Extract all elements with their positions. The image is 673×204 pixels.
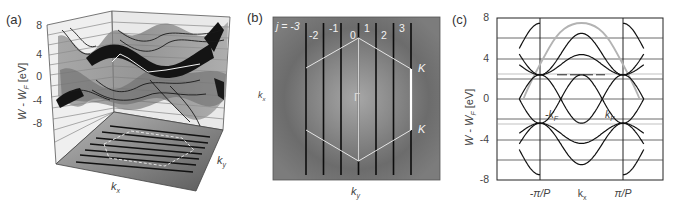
b-j-3: 3 (399, 22, 405, 34)
a-xlabel: kx (111, 180, 120, 194)
b-j-prefix: j = -3 (276, 20, 300, 32)
a-3d-plot (0, 0, 232, 204)
b-ylabel: kx (258, 90, 266, 102)
b-j-1: 1 (364, 22, 370, 34)
b-j-m1: -1 (329, 22, 338, 34)
b-j-2: 2 (381, 29, 387, 41)
b-k-label-top: K (418, 62, 425, 74)
c-xtick-minus-pi-p: -π/P (523, 187, 557, 199)
b-j-0: 0 (350, 29, 356, 41)
c-xtick-pi-p: π/P (606, 187, 640, 199)
b-gamma-label: Γ (354, 91, 360, 103)
b-k-label-bottom: K (418, 123, 425, 135)
c-annot-minus-kf: -kF (545, 108, 558, 122)
panel-c: (c) 8 4 0 -4 -8 W - WF [eV] (445, 0, 673, 204)
panel-b: (b) j = -3 -2 -1 0 1 2 3 Γ (225, 0, 445, 204)
panel-a: (a) 8 4 0 -4 -8 W - WF [eV] (0, 0, 232, 204)
c-band-plot (445, 0, 673, 204)
b-xlabel: ky (351, 185, 360, 199)
c-annot-kf: kF (605, 108, 615, 122)
c-xtick-kx: kx (565, 187, 599, 201)
b-j-m2: -2 (309, 29, 318, 41)
